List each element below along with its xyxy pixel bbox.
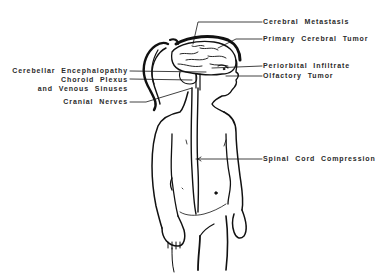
brain [172,41,236,90]
body-outline [152,92,246,272]
label-choroid-plexus: Choroid Plexus [61,76,128,84]
label-primary-cerebral-tumor: Primary Cerebral Tumor [263,35,368,43]
leader-choroid-plexus [130,79,192,80]
label-cerebellar-encephalopathy: Cerebellar Encephalopathy [12,67,128,75]
label-olfactory-tumor: Olfactory Tumor [263,72,333,80]
label-periorbital-infiltrate: Periorbital Infiltrate [263,62,350,70]
label-cranial-nerves: Cranial Nerves [63,98,128,106]
label-venous-sinuses: and Venous Sinuses [38,85,128,93]
label-cerebral-metastasis: Cerebral Metastasis [263,18,349,26]
diagram-canvas: Cerebral Metastasis Primary Cerebral Tum… [0,0,385,277]
leader-cerebellar-encephalopathy [130,71,206,72]
leader-cranial-nerves [130,88,192,102]
label-spinal-cord-compression: Spinal Cord Compression [263,155,376,163]
spinal-cord [191,88,198,214]
